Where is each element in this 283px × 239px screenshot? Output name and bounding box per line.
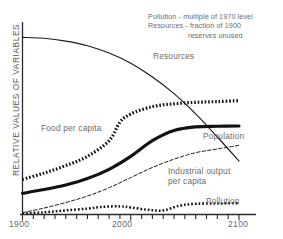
y-axis-title: RELATIVE VALUES OF VARIABLES bbox=[11, 26, 21, 176]
series-label-food: Food per capita bbox=[41, 123, 102, 133]
x-tick-label-2000: 2000 bbox=[112, 219, 132, 229]
series-label-industrial-line1: Industrial output bbox=[168, 166, 230, 176]
note-line-2: Resources - fraction of 1900 bbox=[148, 21, 253, 30]
series-label-resources: Resources bbox=[153, 51, 194, 61]
note-line-1: Pollution - multiple of 1970 level bbox=[148, 12, 253, 21]
x-tick-label-2100: 2100 bbox=[228, 219, 248, 229]
series-label-population: Population bbox=[203, 131, 244, 141]
series-label-industrial-line2: per capita bbox=[168, 176, 206, 186]
x-tick-label-1900: 1900 bbox=[9, 219, 29, 229]
note-line-3: reserves unused bbox=[148, 31, 253, 40]
chart-container: RELATIVE VALUES OF VARIABLES Pollution -… bbox=[0, 0, 283, 239]
series-label-pollution: Pollution bbox=[206, 196, 240, 206]
series-resources-line bbox=[23, 37, 240, 161]
chart-note: Pollution - multiple of 1970 level Resou… bbox=[148, 12, 253, 40]
